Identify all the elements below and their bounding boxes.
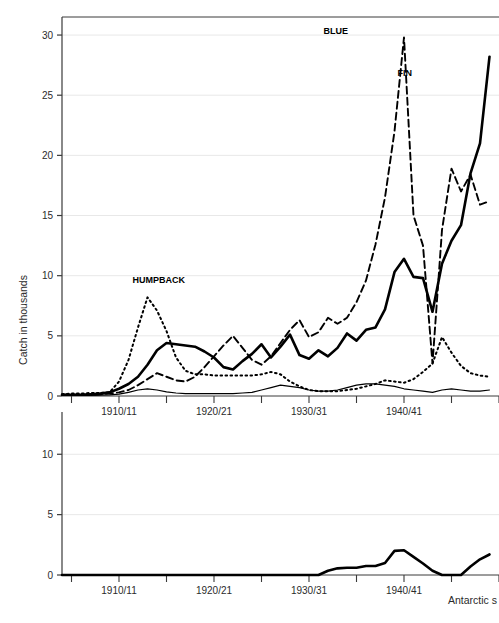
y-tick-label-0: 0 bbox=[47, 391, 53, 402]
chart-background bbox=[0, 0, 499, 623]
x-tick-label-1910: 1910/11 bbox=[101, 406, 137, 417]
x-tick-label-1920: 1920/21 bbox=[196, 585, 233, 596]
series-annotation-fin: FIN bbox=[398, 68, 413, 78]
y-tick-label-30: 30 bbox=[42, 30, 54, 41]
y-axis-title: Catch in thousands bbox=[17, 275, 29, 365]
y-tick-label-20: 20 bbox=[42, 150, 54, 161]
x-tick-label-1930: 1930/31 bbox=[291, 585, 328, 596]
y-tick-label-5: 5 bbox=[47, 330, 53, 341]
whale-catch-chart-figure: 0510152025301910/111920/211930/311940/41… bbox=[0, 0, 499, 623]
y-tick-label-5: 5 bbox=[47, 509, 53, 520]
x-tick-label-1940: 1940/41 bbox=[386, 585, 423, 596]
series-annotation-humpback: HUMPBACK bbox=[133, 275, 186, 285]
y-tick-label-10: 10 bbox=[42, 449, 54, 460]
y-tick-label-25: 25 bbox=[42, 90, 54, 101]
x-tick-label-1930: 1930/31 bbox=[291, 406, 328, 417]
y-tick-label-0: 0 bbox=[47, 570, 53, 581]
series-annotation-blue: BLUE bbox=[323, 26, 348, 36]
chart-canvas: 0510152025301910/111920/211930/311940/41… bbox=[0, 0, 499, 623]
y-tick-label-15: 15 bbox=[42, 210, 54, 221]
x-tick-label-1910: 1910/11 bbox=[101, 585, 137, 596]
x-tick-label-1920: 1920/21 bbox=[196, 406, 233, 417]
x-tick-label-1940: 1940/41 bbox=[386, 406, 423, 417]
y-tick-label-10: 10 bbox=[42, 270, 54, 281]
x-axis-title: Antarctic s bbox=[448, 594, 497, 606]
